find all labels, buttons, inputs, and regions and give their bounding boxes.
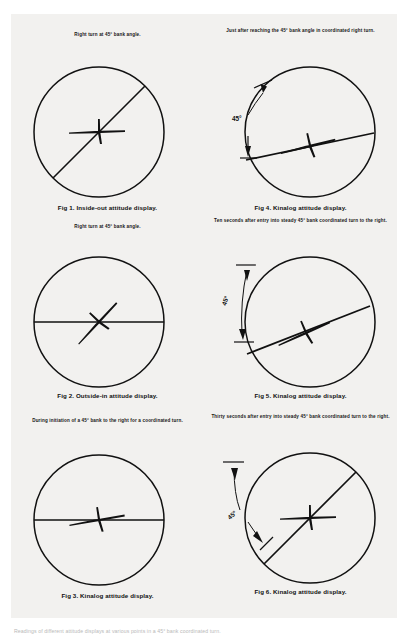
figure-fig2: Right turn at 45° bank angle. Fig 2. Out…: [11, 202, 204, 403]
aircraft-symbol: [273, 311, 334, 355]
figure-fig5: Ten seconds after entry into steady 45° …: [204, 202, 397, 403]
bank-angle-annotation: 45°: [232, 80, 272, 158]
page-root: Right turn at 45° bank angle. Fig 1. Ins…: [0, 0, 408, 644]
aircraft-symbol: [278, 128, 338, 164]
horizon-line: [247, 306, 370, 354]
figure-drawing-fig3: [11, 398, 204, 599]
angle-label: 45°: [220, 295, 230, 307]
figure-drawing-fig5: 45°: [204, 202, 397, 403]
page-bottom-note: Readings of different attitude displays …: [14, 628, 394, 634]
figure-drawing-fig1: [11, 14, 204, 215]
aircraft-symbol: [280, 505, 336, 530]
figure-fig3: During initiation of a 45° bank to the r…: [11, 398, 204, 599]
aircraft-symbol: [69, 119, 125, 144]
figure-drawing-fig6: 45°: [204, 398, 397, 599]
figure-fig1: Right turn at 45° bank angle. Fig 1. Ins…: [11, 14, 204, 215]
attitude-ball-outline: [245, 257, 375, 387]
figure-grid: Right turn at 45° bank angle. Fig 1. Ins…: [11, 14, 397, 618]
figure-caption-fig6: Fig 6. Kinalog attitude display.: [208, 588, 393, 595]
figure-fig6: Thirty seconds after entry into steady 4…: [204, 398, 397, 599]
figure-fig4: Just after reaching the 45° bank angle i…: [204, 14, 397, 215]
figure-drawing-fig4: 45°: [204, 14, 397, 215]
aircraft-symbol: [69, 294, 126, 351]
angle-label: 45°: [232, 115, 242, 122]
figure-caption-fig3: Fig 3. Kinalog attitude display.: [15, 592, 200, 599]
angle-label: 45°: [226, 509, 238, 521]
bank-angle-annotation: 45°: [220, 265, 256, 342]
figure-drawing-fig2: [11, 202, 204, 403]
scanned-page: Right turn at 45° bank angle. Fig 1. Ins…: [11, 14, 397, 618]
